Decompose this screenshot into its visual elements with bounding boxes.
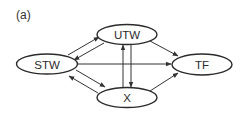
node-stw-label: STW — [34, 59, 60, 71]
node-x-label: X — [123, 92, 131, 104]
node-stw: STW — [17, 54, 78, 74]
edge-x-to-tf — [150, 73, 178, 91]
node-x: X — [97, 88, 157, 108]
edge-x-to-stw — [69, 76, 98, 93]
causal-diagram: (a) UTW STW TF X — [0, 0, 247, 121]
edge-stw-to-x — [76, 70, 105, 87]
edge-utw-to-tf — [150, 41, 178, 56]
edge-utw-to-stw — [74, 43, 104, 60]
edge-stw-to-utw — [68, 37, 99, 55]
node-tf: TF — [172, 54, 232, 75]
node-tf-label: TF — [195, 59, 209, 71]
node-utw: UTW — [97, 25, 157, 45]
node-utw-label: UTW — [114, 29, 140, 41]
edges — [68, 37, 178, 93]
panel-label: (a) — [16, 8, 31, 22]
